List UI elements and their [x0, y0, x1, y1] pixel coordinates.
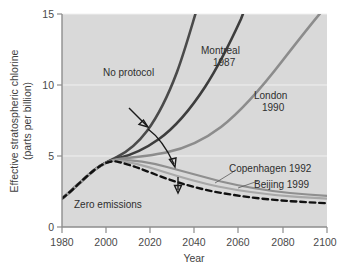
series-label-montreal-line2: 1987	[213, 57, 236, 68]
y-axis-title-line2: (parts per billion)	[21, 82, 33, 160]
series-label-copenhagen: Copenhagen 1992	[229, 163, 312, 174]
x-tick-label-2020: 2020	[138, 236, 162, 248]
x-tick-label-2000: 2000	[94, 236, 118, 248]
x-tick-label-2100: 2100	[313, 236, 337, 248]
x-tick-label-2060: 2060	[226, 236, 250, 248]
series-label-zero-emissions: Zero emissions	[74, 199, 142, 210]
y-axis-title-line1: Effective stratospheric chlorine	[8, 49, 20, 192]
series-label-montreal-line1: Montreal	[201, 45, 240, 56]
x-tick-label-1980: 1980	[50, 236, 74, 248]
y-tick-label-0: 0	[48, 221, 54, 233]
series-label-no-protocol: No protocol	[103, 67, 154, 78]
y-tick-label-15: 15	[42, 8, 54, 20]
x-tick-label-2040: 2040	[182, 236, 206, 248]
series-label-london-line2: 1990	[262, 102, 285, 113]
series-label-beijing: Beijing 1999	[254, 179, 309, 190]
y-tick-labels: 0 5 10 15	[42, 8, 54, 233]
chart-figure: 0 5 10 15 1980 2000 2020 2040 2060 2080 …	[0, 0, 342, 275]
x-tick-label-2080: 2080	[271, 236, 295, 248]
x-axis-title: Year	[183, 252, 205, 264]
x-tick-labels: 1980 2000 2020 2040 2060 2080 2100	[50, 236, 337, 248]
series-label-london-line1: London	[254, 90, 287, 101]
effective-stratospheric-chlorine-chart: 0 5 10 15 1980 2000 2020 2040 2060 2080 …	[0, 0, 342, 275]
y-tick-label-10: 10	[42, 79, 54, 91]
y-tick-label-5: 5	[48, 150, 54, 162]
